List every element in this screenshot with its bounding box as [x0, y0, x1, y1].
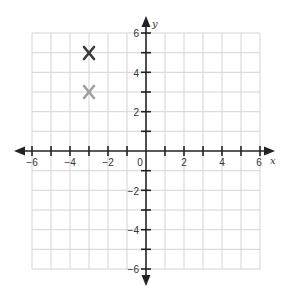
y-tick-label: 2: [133, 107, 139, 118]
y-tick-label: 6: [133, 28, 139, 39]
y-tick-label: −4: [128, 225, 140, 236]
x-axis-label: x: [270, 155, 276, 166]
y-axis-label: y: [151, 18, 158, 29]
x-tick-label: −2: [102, 157, 114, 168]
x-tick-label: −4: [64, 157, 76, 168]
y-tick-label: −6: [128, 264, 140, 275]
x-axis-left-arrow-icon: [14, 147, 25, 156]
x-tick-label: 4: [219, 157, 225, 168]
x-tick-label: −6: [26, 157, 38, 168]
y-axis-up-arrow-icon: [142, 16, 151, 27]
x-tick-label: 2: [181, 157, 187, 168]
y-tick-label: −2: [128, 186, 140, 197]
y-tick-label: 4: [133, 68, 139, 79]
x-tick-label: 6: [256, 157, 262, 168]
origin-label: 0: [137, 157, 143, 168]
x-axis: [22, 146, 272, 156]
y-axis-down-arrow-icon: [142, 275, 151, 286]
coordinate-plane: x y −6 −4 −2 0 2 4 6 6 4 2 −2 −4 −6: [0, 0, 288, 305]
